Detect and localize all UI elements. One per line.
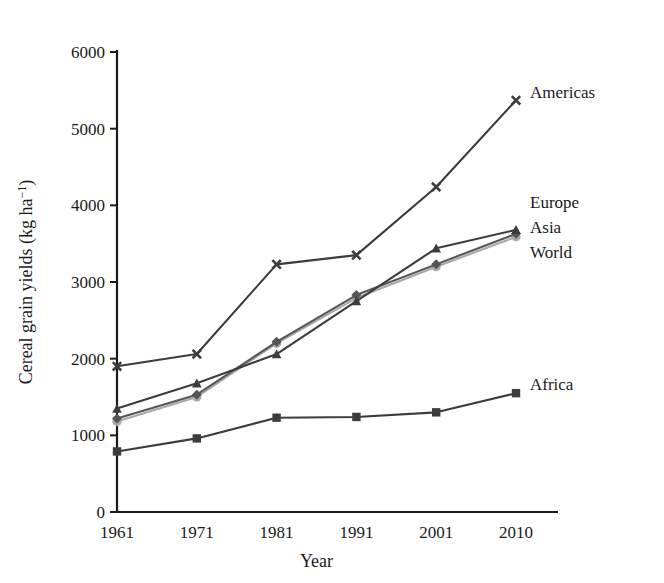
y-tick-label: 1000	[71, 426, 105, 445]
series-labels: AmericasEuropeAsiaWorldAfrica	[530, 83, 595, 394]
y-tick-label: 0	[97, 503, 106, 522]
marker-square	[432, 408, 440, 416]
x-tick-label: 1961	[100, 523, 134, 542]
y-tick-label: 6000	[71, 43, 105, 62]
marker-square	[113, 447, 121, 455]
data-point-americas-2001	[432, 183, 440, 191]
marker-square	[512, 389, 520, 397]
chart-container: 0100020003000400050006000196119711981199…	[0, 0, 664, 583]
cereal-grain-yields-line-chart: 0100020003000400050006000196119711981199…	[0, 0, 664, 583]
y-axis-ticks: 0100020003000400050006000	[71, 43, 117, 522]
series-americas	[113, 96, 520, 370]
x-tick-label: 1971	[180, 523, 214, 542]
x-tick-label: 2010	[499, 523, 533, 542]
marker-square	[272, 414, 280, 422]
series-label-americas: Americas	[530, 83, 595, 102]
series-line-africa	[117, 393, 516, 451]
series-line-world	[117, 237, 516, 422]
data-point-africa-1971	[193, 434, 201, 442]
marker-square	[193, 434, 201, 442]
y-tick-label: 5000	[71, 120, 105, 139]
y-tick-label: 2000	[71, 350, 105, 369]
series-label-europe: Europe	[530, 193, 579, 212]
series-africa	[113, 389, 520, 456]
data-point-africa-1991	[352, 413, 360, 421]
x-axis-title: Year	[300, 551, 333, 571]
data-point-africa-2001	[432, 408, 440, 416]
x-axis-ticks: 196119711981199120012010	[100, 523, 533, 542]
series-label-asia: Asia	[530, 218, 562, 237]
marker-square	[352, 413, 360, 421]
data-point-africa-1961	[113, 447, 121, 455]
chart-axes	[117, 50, 558, 512]
data-point-americas-2010	[512, 96, 520, 104]
series-label-world: World	[530, 243, 573, 262]
y-axis-title-text: Cereal grain yields (kg ha−1)	[15, 180, 37, 385]
y-axis-title-base: Cereal grain yields (kg ha	[16, 198, 37, 384]
x-tick-label: 1991	[339, 523, 373, 542]
y-axis-title: Cereal grain yields (kg ha−1)	[15, 180, 37, 385]
y-tick-label: 4000	[71, 196, 105, 215]
series-line-asia	[117, 234, 516, 419]
data-point-africa-2010	[512, 389, 520, 397]
x-tick-label: 2001	[419, 523, 453, 542]
x-tick-label: 1981	[260, 523, 294, 542]
data-point-africa-1981	[272, 414, 280, 422]
y-tick-label: 3000	[71, 273, 105, 292]
series-world	[112, 232, 520, 426]
series-label-africa: Africa	[530, 375, 574, 394]
y-axis-title-tail: )	[16, 180, 37, 186]
y-axis-title-superscript: −1	[15, 186, 29, 199]
